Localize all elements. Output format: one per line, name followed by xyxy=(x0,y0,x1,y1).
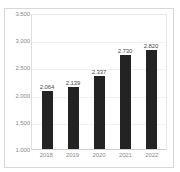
bar-slot[interactable]: 2.820 xyxy=(139,15,164,149)
y-axis-tick-label: 2.000 xyxy=(15,93,30,99)
x-axis-tick-label: 2020 xyxy=(86,152,111,164)
bar-value-label: 2.064 xyxy=(40,84,55,90)
bar-chart: 3.5003.0002.5002.0001.5001.000 2.0642.13… xyxy=(5,9,173,167)
y-axis-tick-label: 1.500 xyxy=(15,120,30,126)
bar-value-label: 2.139 xyxy=(66,80,81,86)
bar[interactable] xyxy=(42,91,53,149)
bar-series: 2.0642.1392.3372.7302.820 xyxy=(32,15,166,149)
bar[interactable] xyxy=(120,55,131,149)
y-axis-tick-label: 2.500 xyxy=(15,65,30,71)
bar-value-label: 2.730 xyxy=(118,48,133,54)
x-axis-tick-label: 2019 xyxy=(60,152,85,164)
bar-value-label: 2.820 xyxy=(144,43,159,49)
y-axis-tick-label: 3.000 xyxy=(15,38,30,44)
bar[interactable] xyxy=(146,50,157,149)
bar-slot[interactable]: 2.337 xyxy=(87,15,112,149)
bar-slot[interactable]: 2.139 xyxy=(61,15,86,149)
x-axis-tick-label: 2022 xyxy=(139,152,164,164)
bar-slot[interactable]: 2.730 xyxy=(113,15,138,149)
bar[interactable] xyxy=(68,87,79,149)
bar-value-label: 2.337 xyxy=(92,69,107,75)
y-axis-tick-label: 3.500 xyxy=(15,11,30,17)
x-axis-tick-label: 2018 xyxy=(34,152,59,164)
y-axis-tick-label: 1.000 xyxy=(15,147,30,153)
bar[interactable] xyxy=(94,76,105,149)
chart-card: 3.5003.0002.5002.0001.5001.000 2.0642.13… xyxy=(4,8,174,168)
y-axis: 3.5003.0002.5002.0001.5001.000 xyxy=(6,14,30,150)
bar-slot[interactable]: 2.064 xyxy=(35,15,60,149)
x-axis: 20182019202020212022 xyxy=(31,152,167,164)
x-axis-tick-label: 2021 xyxy=(113,152,138,164)
plot-area: 2.0642.1392.3372.7302.820 xyxy=(31,14,167,150)
